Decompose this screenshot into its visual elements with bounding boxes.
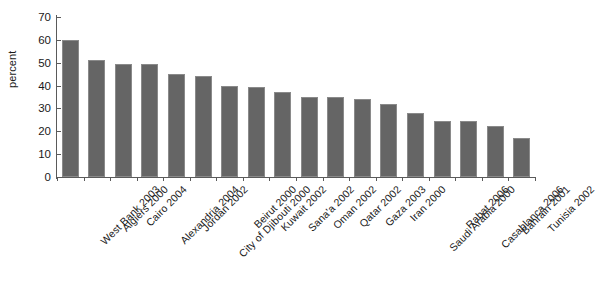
x-tick-mark [376, 177, 377, 181]
bar [62, 40, 79, 177]
x-tick-mark [455, 177, 456, 181]
y-tick-label: 30 [38, 102, 57, 114]
x-tick-label: Rabat 2006 [463, 183, 511, 231]
x-tick-mark [269, 177, 270, 181]
x-tick-mark [535, 177, 536, 181]
x-axis-ticks [57, 177, 535, 181]
bar [460, 121, 477, 177]
bar-series [57, 17, 535, 177]
bar [301, 97, 318, 177]
x-axis-labels: West Bank 2003Algiers 2000Cairo 2004Alex… [57, 183, 535, 278]
x-tick-mark [163, 177, 164, 181]
y-tick-label: 50 [38, 57, 57, 69]
x-tick-mark [243, 177, 244, 181]
y-tick-label: 60 [38, 34, 57, 46]
y-tick-label: 0 [45, 171, 57, 183]
x-tick-mark [190, 177, 191, 181]
bar [274, 92, 291, 177]
bar [327, 97, 344, 177]
x-tick-mark [57, 177, 58, 181]
bar [195, 76, 212, 177]
y-tick-label: 20 [38, 125, 57, 137]
bar [221, 86, 238, 177]
y-axis-label: percent [6, 8, 18, 88]
x-tick-mark [402, 177, 403, 181]
bar [434, 121, 451, 177]
bar [487, 126, 504, 177]
x-tick-mark [482, 177, 483, 181]
bar [248, 87, 265, 177]
plot-area: 010203040506070 [57, 17, 535, 177]
x-tick-mark [84, 177, 85, 181]
y-tick-label: 40 [38, 80, 57, 92]
bar [115, 64, 132, 177]
bar [88, 60, 105, 177]
bar [168, 74, 185, 177]
x-tick-label: City of Djibouti 2000 [236, 183, 312, 259]
x-tick-mark [508, 177, 509, 181]
bar [141, 64, 158, 177]
x-tick-mark [216, 177, 217, 181]
y-tick-label: 10 [38, 148, 57, 160]
bar [380, 104, 397, 177]
x-tick-mark [323, 177, 324, 181]
bar [407, 113, 424, 177]
x-tick-mark [110, 177, 111, 181]
x-tick-mark [429, 177, 430, 181]
x-tick-mark [137, 177, 138, 181]
bar [513, 138, 530, 177]
y-tick-label: 70 [38, 11, 57, 23]
x-tick-mark [296, 177, 297, 181]
bar [354, 99, 371, 177]
x-tick-mark [349, 177, 350, 181]
